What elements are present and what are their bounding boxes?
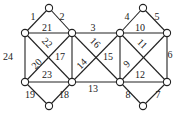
node-E (139, 4, 146, 11)
edge-label: 14 (74, 56, 89, 71)
label-layer: 123456789101112131415161718192021222324 (3, 11, 173, 100)
node-F (163, 29, 170, 36)
edge-label: 19 (25, 89, 35, 100)
node-K (45, 102, 52, 109)
edge-label: 5 (155, 11, 160, 22)
edge-label: 1 (31, 11, 36, 22)
node-G (21, 78, 28, 85)
graph-diagram: 123456789101112131415161718192021222324 (0, 0, 182, 115)
edge-label: 22 (40, 35, 55, 50)
edge-label: 2 (60, 11, 65, 22)
edge-label: 23 (42, 69, 52, 80)
edge-label: 10 (135, 22, 145, 33)
edge-8 (120, 82, 143, 106)
edge-label: 7 (156, 89, 161, 100)
node-A (45, 4, 52, 11)
edge-label: 24 (3, 51, 13, 62)
edge-label: 15 (103, 51, 113, 62)
edge-label: 12 (135, 69, 145, 80)
edge-label: 11 (135, 36, 150, 51)
edge-label: 3 (91, 22, 96, 33)
node-J (163, 78, 170, 85)
edge-label: 16 (88, 35, 103, 50)
edge-label: 13 (88, 83, 98, 94)
node-D (116, 29, 123, 36)
edge-label: 8 (126, 89, 131, 100)
node-H (68, 78, 75, 85)
node-I (116, 78, 123, 85)
edge-label: 6 (168, 49, 173, 60)
edge-label: 21 (42, 22, 52, 33)
edge-label: 17 (55, 51, 65, 62)
node-B (21, 29, 28, 36)
edge-label: 4 (125, 11, 130, 22)
node-L (139, 102, 146, 109)
edge-label: 9 (121, 58, 132, 69)
node-C (68, 29, 75, 36)
edge-label: 18 (59, 89, 69, 100)
